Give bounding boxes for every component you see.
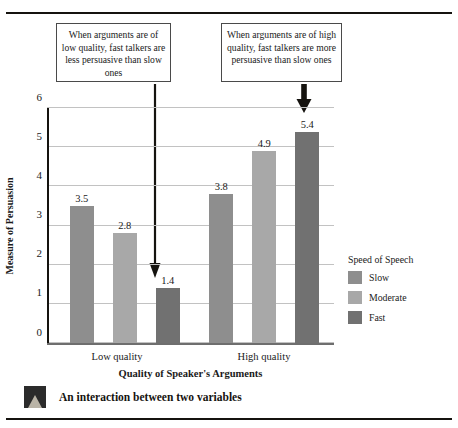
legend-item-moderate: Moderate bbox=[348, 291, 452, 304]
bar-fast-high-quality: 5.4 bbox=[295, 132, 319, 344]
legend-label: Slow bbox=[369, 272, 389, 283]
bar-value-label: 4.9 bbox=[258, 138, 271, 149]
bar-slow-low-quality: 3.5 bbox=[70, 206, 94, 343]
figure-caption: An interaction between two variables bbox=[24, 386, 242, 408]
x-group-label-low-quality: Low quality bbox=[47, 351, 187, 362]
annotation-high-quality: When arguments are of high quality, fast… bbox=[221, 23, 342, 82]
y-axis-tick-label: 1 bbox=[37, 286, 43, 298]
bar-fast-low-quality: 1.4 bbox=[156, 288, 180, 343]
bar-value-label: 2.8 bbox=[118, 220, 131, 231]
y-axis-tick-label: 2 bbox=[37, 247, 43, 259]
y-axis-tick-label: 3 bbox=[37, 208, 43, 220]
annotation-low-quality: When arguments are of low quality, fast … bbox=[56, 23, 171, 82]
legend-label: Fast bbox=[369, 312, 385, 323]
bar-value-label: 3.8 bbox=[215, 181, 228, 192]
bar-value-label: 3.5 bbox=[75, 193, 88, 204]
bar-value-label: 5.4 bbox=[301, 119, 314, 130]
legend-items: SlowModerateFast bbox=[348, 271, 452, 324]
figure-frame: When arguments are of low quality, fast … bbox=[0, 0, 458, 428]
figure-caption-text: An interaction between two variables bbox=[59, 391, 242, 403]
x-group-label-high-quality: High quality bbox=[194, 351, 334, 362]
legend-item-slow: Slow bbox=[348, 271, 452, 284]
legend-swatch-slow bbox=[348, 271, 362, 284]
legend-swatch-moderate bbox=[348, 291, 362, 304]
legend: Speed of Speech SlowModerateFast bbox=[348, 254, 452, 331]
bar-value-label: 1.4 bbox=[161, 275, 174, 286]
bar-moderate-low-quality: 2.8 bbox=[113, 233, 137, 343]
photo-thumbnail-icon bbox=[24, 386, 46, 408]
top-rule bbox=[6, 12, 452, 14]
bar-moderate-high-quality: 4.9 bbox=[252, 151, 276, 343]
legend-title: Speed of Speech bbox=[348, 254, 452, 265]
y-axis-tick-label: 0 bbox=[37, 326, 43, 338]
bars-layer: 3.52.81.43.84.95.4 bbox=[47, 108, 334, 345]
y-axis-tick-label: 4 bbox=[37, 169, 43, 181]
legend-swatch-fast bbox=[348, 311, 362, 324]
y-axis-tick-label: 6 bbox=[37, 91, 43, 103]
y-axis-title: Measure of Persuasion bbox=[4, 177, 15, 274]
plot-area: 0123456 3.52.81.43.84.95.4 bbox=[47, 108, 334, 345]
y-axis-tick-label: 5 bbox=[37, 130, 43, 142]
legend-label: Moderate bbox=[369, 292, 407, 303]
bar-slow-high-quality: 3.8 bbox=[209, 194, 233, 343]
x-axis-title: Quality of Speaker's Arguments bbox=[47, 368, 334, 379]
bottom-rule bbox=[6, 418, 452, 420]
legend-item-fast: Fast bbox=[348, 311, 452, 324]
